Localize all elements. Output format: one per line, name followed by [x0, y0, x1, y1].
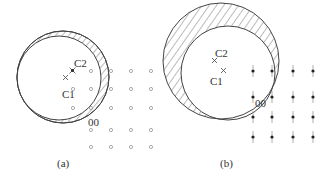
lattice-point: [109, 69, 112, 72]
lattice-dot: [251, 95, 254, 98]
caption-a: (a): [57, 157, 70, 170]
lattice-dot: [270, 115, 273, 118]
label-origin-a: 00: [88, 116, 100, 128]
lattice-dot: [291, 115, 294, 118]
lattice-point: [270, 111, 273, 123]
lattice-dot: [311, 115, 314, 118]
lattice-dot: [311, 69, 314, 72]
lattice-dot: [291, 69, 294, 72]
lattice-point: [109, 87, 112, 90]
lattice-point: [129, 87, 132, 90]
lattice-dot: [251, 115, 254, 118]
lattice-point: [291, 131, 294, 143]
lattice-point: [129, 106, 132, 109]
label-c2-b: C2: [215, 47, 228, 59]
panel-b: C2 C1 00 (b): [163, 3, 315, 170]
lattice-point: [149, 69, 152, 72]
label-c1-b: C1: [210, 75, 223, 87]
lattice-dot: [251, 69, 254, 72]
lattice-point: [89, 128, 92, 131]
lattice-point: [149, 106, 152, 109]
lattice-dot: [311, 95, 314, 98]
lattice-dot: [270, 69, 273, 72]
lattice-point: [251, 131, 254, 143]
lattice-point: [149, 87, 152, 90]
lattice-point: [109, 145, 112, 148]
lattice-point: [270, 131, 273, 143]
lattice-point: [311, 91, 314, 103]
lattice-point: [251, 111, 254, 123]
lattice-point: [311, 65, 314, 77]
lattice-dot: [270, 135, 273, 138]
lattice-point: [291, 111, 294, 123]
lattice-dot: [251, 135, 254, 138]
label-origin-b: 00: [255, 97, 267, 109]
lattice-point: [311, 131, 314, 143]
lattice-point: [109, 106, 112, 109]
lattice-point: [129, 128, 132, 131]
lattice-point: [149, 128, 152, 131]
lattice-point: [149, 145, 152, 148]
lattice-point: [109, 128, 112, 131]
figure: C2 C1 00 (a) C2 C1 00 (b): [0, 0, 329, 177]
lattice-point: [129, 145, 132, 148]
caption-b: (b): [220, 157, 233, 170]
label-c1-a: C1: [62, 88, 75, 100]
lattice-point: [89, 145, 92, 148]
lattice-dot: [311, 135, 314, 138]
lattice-point: [291, 65, 294, 77]
label-c2-a: C2: [74, 57, 87, 69]
lattice-dot: [291, 95, 294, 98]
lattice-point: [129, 69, 132, 72]
lattice-dot: [270, 95, 273, 98]
lattice-point: [311, 111, 314, 123]
lattice-dot: [291, 135, 294, 138]
lattice-point: [291, 91, 294, 103]
panel-a: C2 C1 00 (a): [17, 31, 153, 170]
